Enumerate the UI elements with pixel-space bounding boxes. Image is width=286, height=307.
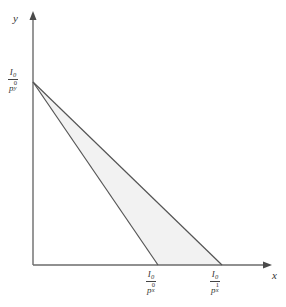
x-intercept-new-denominator: p1x xyxy=(210,281,220,295)
y-intercept-label: I0 p0y xyxy=(8,68,18,93)
x-intercept-new-label: I0 p1x xyxy=(210,270,220,295)
y-intercept-denominator: p0y xyxy=(8,79,18,93)
x-intercept-initial-denominator: p0x xyxy=(146,281,156,295)
y-axis-label: y xyxy=(13,13,18,24)
plot-canvas xyxy=(0,0,286,307)
initial-budget-line xyxy=(33,82,158,265)
budget-constraint-figure: y x I0 p0y I0 p0x I0 p1x xyxy=(0,0,286,307)
y-intercept-denominator-scripts: 0y xyxy=(14,80,17,90)
new-budget-line xyxy=(33,82,222,265)
x-intercept-initial-denominator-scripts: 0x xyxy=(152,282,155,292)
y-intercept-numerator: I0 xyxy=(8,68,18,79)
x-intercept-new-denominator-scripts: 1x xyxy=(216,282,219,292)
x-intercept-initial-label: I0 p0x xyxy=(146,270,156,295)
x-axis-label: x xyxy=(272,270,277,281)
x-axis-arrow-icon xyxy=(263,262,272,269)
x-intercept-new-numerator: I0 xyxy=(210,270,220,281)
x-intercept-initial-numerator: I0 xyxy=(146,270,156,281)
y-axis-arrow-icon xyxy=(30,11,37,20)
